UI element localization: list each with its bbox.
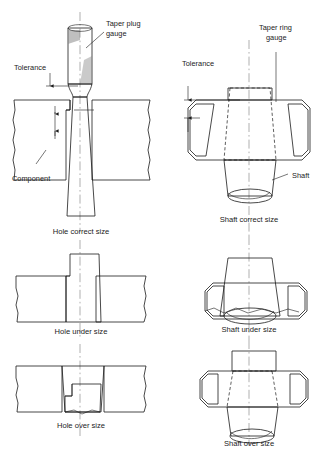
caption-hole-over-size: Hole over size [57, 421, 105, 430]
technical-drawing-figure: Taper plug gauge Tolerance Component Hol… [0, 0, 324, 453]
label-shaft: Shaft [292, 171, 309, 180]
caption-hole-correct-size: Hole correct size [53, 227, 110, 236]
label-tolerance-left: Tolerance [14, 63, 46, 72]
label-component: Component [12, 174, 50, 183]
caption-hole-under-size: Hole under size [55, 327, 108, 336]
label-taper-ring-gauge-line2: gauge [266, 33, 287, 42]
caption-shaft-correct-size: Shaft correct size [220, 215, 279, 224]
label-tolerance-right: Tolerance [182, 59, 214, 68]
label-taper-plug-gauge-line1: Taper plug [106, 19, 141, 28]
label-taper-ring-gauge-line1: Taper ring [259, 23, 292, 32]
caption-shaft-over-size: Shaft over size [224, 439, 274, 448]
label-taper-plug-gauge-line2: gauge [106, 29, 127, 38]
caption-shaft-under-size: Shaft under size [222, 325, 277, 334]
canvas-background [0, 0, 324, 453]
